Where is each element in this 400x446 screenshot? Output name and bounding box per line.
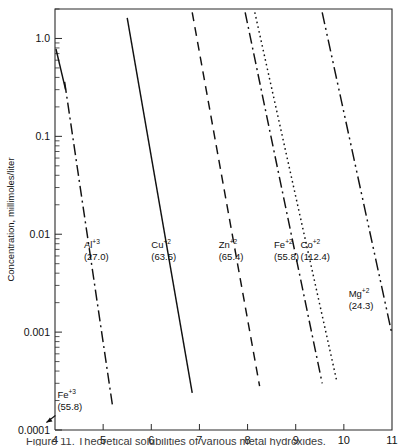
axes-group: 1.00.10.010.0010.00014567891011 [18, 9, 398, 446]
y-tick-label: 0.0001 [18, 424, 50, 436]
series-label-mg-mass: (24.3) [349, 300, 374, 311]
series-label-co-ion: Co+2 [301, 238, 321, 250]
figure-caption-text: Figure 11. Theoretical solubilities of v… [26, 438, 326, 446]
series-group [56, 12, 392, 407]
series-line-cop2 [255, 12, 337, 380]
y-axis-title: Concentration, millimoles/liter [5, 157, 16, 281]
series-label-zn-mass: (65.4) [219, 251, 244, 262]
series-label-cu-mass: (63.5) [151, 251, 176, 262]
series-label-fe-mass: (55.8) [57, 401, 82, 412]
series-label-fe-mass: (55.8) [274, 251, 299, 262]
series-label-al-mass: (27.0) [84, 251, 109, 262]
series-label-cu-ion: Cu+2 [151, 238, 171, 250]
series-label-zn-ion: Zn+2 [219, 238, 238, 250]
series-line-cup2 [127, 18, 192, 393]
series-line-znp2 [192, 12, 259, 386]
series-label-fe-ion: Fe+2 [274, 238, 293, 250]
series-label-fe-ion: Fe+3 [57, 388, 76, 400]
figure-container: 1.00.10.010.0010.00014567891011 Fe+3(55.… [0, 0, 400, 446]
series-label-mg-ion: Mg+2 [349, 287, 370, 299]
axis-titles-group: Concentration, millimoles/liter [5, 157, 16, 281]
series-label-al-ion: Al+3 [84, 238, 100, 250]
figure-caption: Figure 11. Theoretical solubilities of v… [0, 438, 400, 446]
y-tick-label: 0.001 [24, 326, 50, 338]
series-label-co-mass: (112.4) [301, 251, 330, 262]
y-tick-label: 1.0 [35, 32, 50, 44]
y-tick-label: 0.01 [30, 228, 51, 240]
series-line-mgp2 [322, 12, 392, 334]
solubility-chart: 1.00.10.010.0010.00014567891011 Fe+3(55.… [0, 0, 400, 446]
y-tick-label: 0.1 [35, 130, 50, 142]
series-line-fep2 [245, 12, 322, 383]
plot-frame [55, 9, 392, 430]
series-labels-group: Fe+3(55.8)Al+3(27.0)Cu+2(63.5)Zn+2(65.4)… [46, 238, 373, 422]
